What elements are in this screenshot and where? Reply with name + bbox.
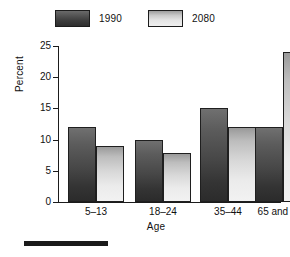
x-tick-label-5-13: 5–13	[68, 206, 124, 217]
x-tick-label-65-and-over: 65 and over	[249, 206, 290, 217]
y-tick-label-0: 0	[45, 197, 51, 207]
legend-item-1990: 1990	[55, 10, 122, 27]
y-tick-label-10: 10	[40, 135, 51, 145]
x-axis-tick-labels: 5–13 18–24 35–44 65 and over	[59, 206, 285, 220]
bar-2080-5-13	[96, 146, 124, 202]
chart-legend: 1990 2080	[55, 10, 255, 32]
bar-group-18-24	[135, 46, 191, 202]
y-axis-tick-5	[53, 171, 58, 172]
bar-2080-35-44	[228, 127, 256, 203]
y-axis-tick-0	[53, 202, 58, 203]
bar-1990-5-13	[68, 127, 96, 202]
bar-group-65-and-over	[255, 46, 290, 202]
bar-1990-65-and-over	[255, 127, 283, 203]
y-axis-tick-labels: 25 20 15 10 5 0	[25, 46, 51, 202]
x-tick-label-35-44: 35–44	[200, 206, 256, 217]
bar-group-5-13	[68, 46, 124, 202]
plot-area: 25 20 15 10 5 0	[59, 46, 281, 202]
legend-label-1990: 1990	[99, 13, 122, 24]
y-axis-tick-10	[53, 140, 58, 141]
bar-1990-35-44	[200, 108, 228, 202]
y-axis-tick-20	[53, 77, 58, 78]
bar-series-container	[59, 46, 281, 202]
bar-1990-18-24	[135, 140, 163, 202]
y-axis-title: Percent	[14, 56, 25, 92]
x-axis-title-text: Age	[147, 221, 165, 232]
x-tick-label-18-24: 18–24	[135, 206, 191, 217]
legend-label-2080: 2080	[192, 13, 215, 24]
legend-swatch-1990-icon	[55, 10, 90, 27]
bar-2080-65-and-over	[283, 52, 290, 202]
bar-2080-18-24	[163, 153, 191, 202]
bar-group-35-44	[200, 46, 256, 202]
footer-rule	[24, 241, 108, 246]
y-tick-label-15: 15	[40, 103, 51, 113]
x-axis-line	[58, 202, 281, 203]
y-axis-tick-15	[53, 108, 58, 109]
bar-chart-figure: 1990 2080 Percent 25 20 15 10 5 0	[0, 0, 290, 257]
x-axis-title: Age	[0, 221, 290, 232]
y-tick-label-25: 25	[40, 41, 51, 51]
y-tick-label-20: 20	[40, 72, 51, 82]
legend-swatch-2080-icon	[148, 10, 183, 27]
y-tick-label-5: 5	[45, 166, 51, 176]
legend-item-2080: 2080	[148, 10, 215, 27]
y-axis-tick-25	[53, 46, 58, 47]
